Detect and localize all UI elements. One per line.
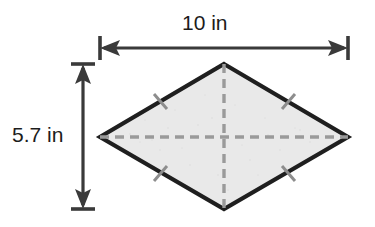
geometry-figure xyxy=(0,0,375,227)
width-dimension-arrow xyxy=(100,36,348,60)
height-dimension-label: 5.7 in xyxy=(12,124,63,145)
height-dimension-arrow xyxy=(71,64,95,209)
figure-canvas: 10 in 5.7 in xyxy=(0,0,375,227)
width-dimension-label: 10 in xyxy=(182,12,228,33)
